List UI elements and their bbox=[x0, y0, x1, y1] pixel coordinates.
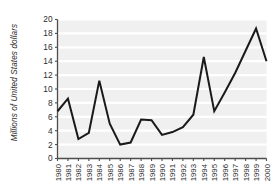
x-tick-label: 1994 bbox=[200, 163, 209, 181]
x-tick-label: 1982 bbox=[74, 164, 83, 181]
y-tick-label: 8 bbox=[48, 98, 53, 108]
x-tick-label: 1984 bbox=[95, 163, 104, 181]
x-tick-label: 1988 bbox=[137, 164, 146, 181]
y-tick-label: 20 bbox=[43, 14, 53, 24]
x-tick-label: 1981 bbox=[64, 164, 73, 181]
chart-figure: Millions of United States dollars 024681… bbox=[0, 0, 280, 195]
y-axis-ticks-group: 02468101214161820 bbox=[43, 14, 57, 163]
x-tick-label: 1990 bbox=[158, 163, 167, 181]
x-axis-ticks-group: 1980198119821983198419851986198719881989… bbox=[54, 159, 272, 182]
x-tick-label: 1999 bbox=[252, 164, 261, 181]
x-tick-label: 1983 bbox=[85, 164, 94, 181]
y-tick-label: 0 bbox=[48, 153, 53, 163]
x-tick-label: 1997 bbox=[231, 164, 240, 181]
y-tick-label: 10 bbox=[43, 84, 53, 94]
x-tick-label: 1985 bbox=[106, 163, 115, 181]
x-tick-label: 1991 bbox=[168, 164, 177, 181]
x-tick-label: 1986 bbox=[116, 164, 125, 181]
x-tick-label: 1995 bbox=[210, 163, 219, 181]
x-tick-label: 2000 bbox=[263, 163, 272, 181]
x-tick-label: 1989 bbox=[148, 164, 157, 181]
x-tick-label: 1993 bbox=[189, 164, 198, 181]
y-tick-label: 4 bbox=[48, 126, 53, 136]
x-tick-label: 1980 bbox=[54, 163, 63, 181]
y-tick-label: 2 bbox=[48, 140, 53, 150]
line-chart-plot: 02468101214161820 1980198119821983198419… bbox=[0, 0, 280, 195]
y-tick-label: 12 bbox=[43, 70, 53, 80]
y-tick-label: 16 bbox=[43, 42, 53, 52]
x-tick-label: 1996 bbox=[221, 164, 230, 181]
x-tick-label: 1992 bbox=[179, 164, 188, 181]
y-tick-label: 6 bbox=[48, 112, 53, 122]
x-tick-label: 1987 bbox=[127, 164, 136, 181]
x-tick-label: 1998 bbox=[242, 164, 251, 181]
y-tick-label: 18 bbox=[43, 28, 53, 38]
y-tick-label: 14 bbox=[43, 56, 53, 66]
